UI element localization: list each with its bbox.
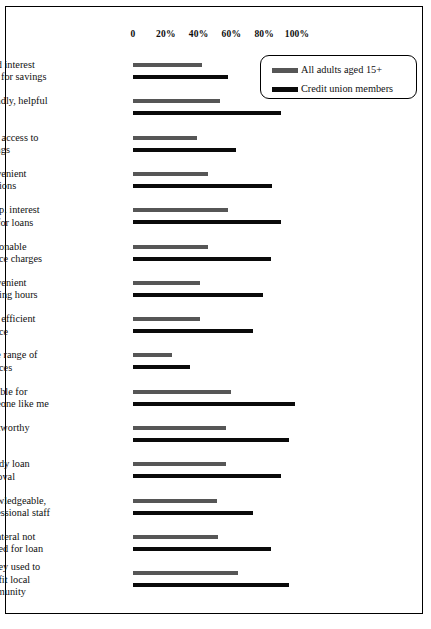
bar-all-adults — [133, 317, 200, 321]
legend-swatch-icon — [272, 68, 298, 73]
bar-all-adults — [133, 390, 231, 394]
bar-all-adults — [133, 281, 200, 285]
bar-credit-union-members — [133, 511, 253, 515]
category-label: Friendly, helpful staff — [0, 95, 129, 120]
bar-credit-union-members — [133, 293, 263, 297]
category-row: Money used to benefit local community — [6, 571, 422, 589]
x-axis-tick-20: 20% — [156, 29, 176, 39]
bar-all-adults — [133, 63, 202, 67]
bar-all-adults — [133, 136, 197, 140]
x-axis-tick-60: 60% — [222, 29, 242, 39]
legend-label: Credit union members — [301, 81, 393, 97]
category-row: Collateral not needed for loan — [6, 535, 422, 553]
bar-all-adults — [133, 462, 226, 466]
bar-all-adults — [133, 208, 228, 212]
category-label: Collateral not needed for loan — [0, 531, 129, 556]
bar-credit-union-members — [133, 148, 236, 152]
category-label: Fast, efficient service — [0, 313, 129, 338]
bar-credit-union-members — [133, 365, 190, 369]
bar-credit-union-members — [133, 438, 289, 442]
category-row: Easy access to savings — [6, 136, 422, 154]
category-row: Suitable for someone like me — [6, 390, 422, 408]
bar-credit-union-members — [133, 184, 272, 188]
category-label: Knowledgeable, professional staff — [0, 495, 129, 520]
legend-swatch-icon — [272, 87, 298, 92]
bar-credit-union-members — [133, 474, 281, 478]
category-row: Comp. interest rate for loans — [6, 208, 422, 226]
x-axis-tick-40: 40% — [189, 29, 209, 39]
category-row: Speedy loan approval — [6, 462, 422, 480]
category-label: Trustworthy — [0, 422, 129, 434]
category-label: Wide range of services — [0, 349, 129, 374]
x-axis-tick-0: 0 — [131, 29, 136, 39]
bar-credit-union-members — [133, 257, 271, 261]
legend-label: All adults aged 15+ — [301, 62, 382, 78]
bar-all-adults — [133, 571, 238, 575]
category-row: Fast, efficient service — [6, 317, 422, 335]
bar-credit-union-members — [133, 75, 228, 79]
category-row: Convenient locations — [6, 172, 422, 190]
bar-all-adults — [133, 172, 208, 176]
bar-credit-union-members — [133, 402, 295, 406]
category-label: Comp. interest rate for loans — [0, 204, 129, 229]
category-label: Good interest rates for savings — [0, 59, 129, 84]
category-row: Convenient opening hours — [6, 281, 422, 299]
chart-legend: All adults aged 15+Credit union members — [260, 55, 417, 99]
category-label: Convenient locations — [0, 168, 129, 193]
bar-credit-union-members — [133, 547, 271, 551]
plot-area: 020%40%60%80%100% Good interest rates fo… — [6, 7, 422, 613]
category-row: Friendly, helpful staff — [6, 99, 422, 117]
x-axis-tick-100: 100% — [285, 29, 310, 39]
category-label: Reasonable service charges — [0, 241, 129, 266]
category-row: Wide range of services — [6, 353, 422, 371]
bar-all-adults — [133, 426, 226, 430]
category-label: Speedy loan approval — [0, 458, 129, 483]
category-label: Suitable for someone like me — [0, 386, 129, 411]
bar-credit-union-members — [133, 220, 281, 224]
bar-all-adults — [133, 353, 172, 357]
category-label: Easy access to savings — [0, 132, 129, 157]
bar-all-adults — [133, 499, 217, 503]
category-label: Convenient opening hours — [0, 277, 129, 302]
bar-all-adults — [133, 535, 218, 539]
bar-credit-union-members — [133, 329, 253, 333]
category-label: Money used to benefit local community — [0, 561, 129, 598]
bar-all-adults — [133, 99, 220, 103]
category-row: Knowledgeable, professional staff — [6, 499, 422, 517]
category-row: Reasonable service charges — [6, 245, 422, 263]
bar-all-adults — [133, 245, 208, 249]
bar-credit-union-members — [133, 111, 281, 115]
category-row: Trustworthy — [6, 426, 422, 444]
x-axis-tick-80: 80% — [254, 29, 274, 39]
bar-credit-union-members — [133, 583, 289, 587]
chart-frame: 020%40%60%80%100% Good interest rates fo… — [5, 6, 423, 614]
